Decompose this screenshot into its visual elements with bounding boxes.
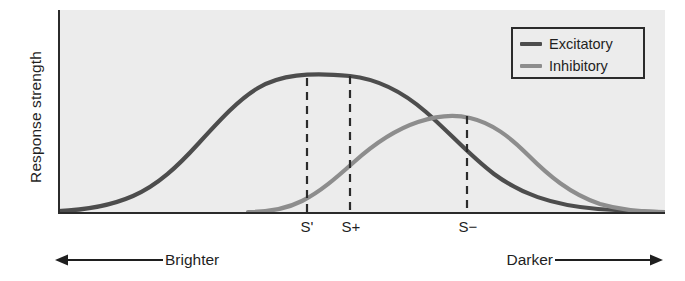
direction-label-brighter: Brighter	[165, 251, 219, 269]
response-strength-chart: Response strength S' S+ S− Brighter	[0, 0, 685, 281]
legend-swatch-inhibitory-icon	[520, 64, 542, 68]
direction-right-group: Darker	[506, 243, 663, 277]
left-arrow-icon	[55, 250, 165, 270]
legend-item-excitatory: Excitatory	[520, 33, 643, 55]
legend-label-excitatory: Excitatory	[549, 37, 613, 52]
direction-left-group: Brighter	[55, 243, 219, 277]
x-axis-line	[58, 212, 665, 214]
chart-legend: Excitatory Inhibitory	[511, 27, 645, 79]
right-arrow-icon	[553, 250, 663, 270]
y-axis-line	[58, 10, 60, 214]
curve-inhibitory	[248, 116, 665, 212]
legend-label-inhibitory: Inhibitory	[549, 59, 608, 74]
tick-label-s-prime: S'	[301, 218, 314, 235]
tick-label-s-plus: S+	[342, 218, 361, 235]
legend-swatch-excitatory-icon	[520, 42, 542, 46]
legend-item-inhibitory: Inhibitory	[520, 55, 643, 77]
tick-label-s-minus: S−	[459, 218, 478, 235]
direction-label-darker: Darker	[506, 251, 553, 269]
axis-direction-bar: Brighter Darker	[0, 243, 685, 277]
y-axis-title: Response strength	[27, 7, 45, 227]
